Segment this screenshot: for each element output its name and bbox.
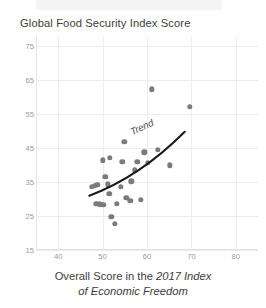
y-axis-tick-label: 25 [8,212,34,221]
chart-figure: Global Food Security Index Score 1525354… [0,0,266,308]
plot-area: Trend [36,36,258,250]
y-axis-tick-label: 55 [8,110,34,119]
y-axis-tick-label: 35 [8,178,34,187]
panel-tint [36,0,222,10]
x-axis-label-italic-2: of Economic Freedom [78,285,187,297]
x-axis-tick-label: 80 [232,252,240,261]
x-axis-tick-label: 70 [187,252,195,261]
y-axis-tick-label: 45 [8,144,34,153]
x-axis-label-italic-1: 2017 Index [156,270,211,282]
y-axis-tick-label: 75 [8,42,34,51]
y-axis-ticks: 15253545556575 [6,36,34,250]
x-axis-tick-label: 50 [98,252,106,261]
x-axis-label-plain: Overall Score in the [55,270,156,282]
x-axis-label: Overall Score in the 2017 Index of Econo… [0,269,266,299]
chart-title: Global Food Security Index Score [20,17,190,29]
x-axis-ticks: 4050607080 [36,250,258,266]
y-axis-tick-label: 15 [8,246,34,255]
trend-line [36,36,258,250]
y-axis-tick-label: 65 [8,76,34,85]
x-axis-tick-label: 60 [143,252,151,261]
x-axis-tick-label: 40 [54,252,62,261]
